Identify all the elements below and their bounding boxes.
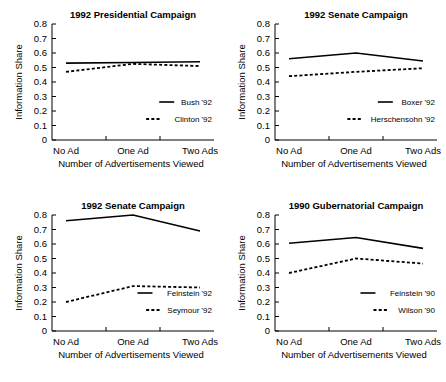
x-category-label: Two Ads <box>182 336 218 347</box>
y-tick-label: 0.5 <box>34 253 47 264</box>
x-category-label: Two Ads <box>182 145 218 156</box>
y-axis-title: Information Share <box>236 235 247 311</box>
y-tick-label: 0.5 <box>34 62 47 73</box>
y-tick-label: 0 <box>42 325 47 336</box>
chart-panel-3: 1990 Gubernatorial Campaign00.10.20.30.4… <box>223 191 446 382</box>
y-tick-label: 0.7 <box>34 224 47 235</box>
legend-label-1: Herschensohn '92 <box>371 115 436 124</box>
y-tick-label: 0.6 <box>257 47 270 58</box>
y-tick-label: 0.3 <box>257 282 270 293</box>
y-tick-label: 0.2 <box>34 105 47 116</box>
x-category-label: No Ad <box>53 336 79 347</box>
y-tick-label: 0.6 <box>34 238 47 249</box>
chart-panel-1: 1992 Senate Campaign00.10.20.30.40.50.60… <box>223 0 446 191</box>
y-tick-label: 0.1 <box>34 120 47 131</box>
legend-label-0: Feinstein '92 <box>167 289 213 298</box>
chart-3: 1990 Gubernatorial Campaign00.10.20.30.4… <box>223 191 446 382</box>
series-line-0 <box>66 215 200 231</box>
series-line-1 <box>66 64 200 72</box>
y-tick-label: 0.3 <box>257 91 270 102</box>
y-tick-label: 0.7 <box>257 33 270 44</box>
chart-panel-0: 1992 Presidential Campaign00.10.20.30.40… <box>0 0 223 191</box>
x-category-label: No Ad <box>53 145 79 156</box>
x-category-label: One Ad <box>117 336 149 347</box>
y-tick-label: 0.5 <box>257 62 270 73</box>
x-axis-title: Number of Advertisements Viewed <box>58 349 204 360</box>
x-axis-title: Number of Advertisements Viewed <box>281 349 427 360</box>
x-category-label: Two Ads <box>405 145 441 156</box>
x-category-label: No Ad <box>276 145 302 156</box>
y-tick-label: 0.2 <box>257 105 270 116</box>
y-axis-title: Information Share <box>13 44 24 120</box>
y-tick-label: 0.1 <box>257 311 270 322</box>
chart-title: 1990 Gubernatorial Campaign <box>289 200 424 211</box>
legend-label-0: Feinstein '90 <box>390 289 436 298</box>
y-tick-label: 0.3 <box>34 282 47 293</box>
y-tick-label: 0.4 <box>257 76 270 87</box>
y-tick-label: 0 <box>265 325 270 336</box>
x-axis-title: Number of Advertisements Viewed <box>58 158 204 169</box>
legend-label-0: Bush '92 <box>181 98 212 107</box>
chart-0: 1992 Presidential Campaign00.10.20.30.40… <box>0 0 223 191</box>
y-tick-label: 0.4 <box>34 267 47 278</box>
x-axis-title: Number of Advertisements Viewed <box>281 158 427 169</box>
x-category-label: One Ad <box>117 145 149 156</box>
series-line-0 <box>66 62 200 63</box>
y-tick-label: 0.2 <box>257 296 270 307</box>
y-tick-label: 0.8 <box>34 18 47 29</box>
x-category-label: Two Ads <box>405 336 441 347</box>
y-tick-label: 0.1 <box>34 311 47 322</box>
x-category-label: One Ad <box>340 145 372 156</box>
legend-label-1: Seymour '92 <box>167 306 212 315</box>
chart-1: 1992 Senate Campaign00.10.20.30.40.50.60… <box>223 0 446 191</box>
legend-label-1: Clinton '92 <box>174 115 212 124</box>
y-tick-label: 0.4 <box>34 76 47 87</box>
y-tick-label: 0.6 <box>34 47 47 58</box>
series-line-0 <box>289 237 423 248</box>
y-tick-label: 0.8 <box>34 209 47 220</box>
legend-label-1: Wilson '90 <box>398 306 435 315</box>
y-axis-title: Information Share <box>236 44 247 120</box>
y-tick-label: 0.1 <box>257 120 270 131</box>
y-tick-label: 0 <box>42 134 47 145</box>
series-line-1 <box>289 68 423 76</box>
chart-grid: 1992 Presidential Campaign00.10.20.30.40… <box>0 0 446 382</box>
chart-panel-2: 1992 Senate Campaign00.10.20.30.40.50.60… <box>0 191 223 382</box>
y-tick-label: 0.5 <box>257 253 270 264</box>
y-tick-label: 0 <box>265 134 270 145</box>
chart-title: 1992 Presidential Campaign <box>70 9 196 20</box>
chart-title: 1992 Senate Campaign <box>81 200 185 211</box>
legend-label-0: Boxer '92 <box>401 98 435 107</box>
series-line-0 <box>289 53 423 61</box>
y-tick-label: 0.8 <box>257 209 270 220</box>
x-category-label: No Ad <box>276 336 302 347</box>
y-axis-title: Information Share <box>13 235 24 311</box>
series-line-1 <box>289 259 423 274</box>
y-tick-label: 0.8 <box>257 18 270 29</box>
y-tick-label: 0.7 <box>257 224 270 235</box>
y-tick-label: 0.7 <box>34 33 47 44</box>
chart-2: 1992 Senate Campaign00.10.20.30.40.50.60… <box>0 191 223 382</box>
y-tick-label: 0.3 <box>34 91 47 102</box>
y-tick-label: 0.2 <box>34 296 47 307</box>
x-category-label: One Ad <box>340 336 372 347</box>
y-tick-label: 0.4 <box>257 267 270 278</box>
chart-title: 1992 Senate Campaign <box>304 9 408 20</box>
y-tick-label: 0.6 <box>257 238 270 249</box>
